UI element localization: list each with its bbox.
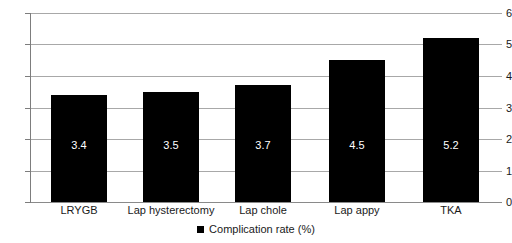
gridline: [30, 13, 502, 14]
y-tick-label: 2: [490, 134, 512, 145]
y-tick-label: 5: [490, 39, 512, 50]
y-tick-mark: [25, 44, 31, 45]
legend-swatch-icon: [197, 226, 204, 233]
bar-value-label: 3.5: [143, 140, 199, 151]
y-tick-mark: [25, 139, 31, 140]
y-tick-label: 4: [490, 71, 512, 82]
bar-value-label: 4.5: [329, 140, 385, 151]
y-tick-label: 1: [490, 166, 512, 177]
bar-value-label: 3.4: [51, 140, 107, 151]
gridline: [30, 202, 502, 203]
y-tick-mark: [25, 202, 31, 203]
bar-value-label: 5.2: [423, 140, 479, 151]
y-tick-label: 3: [490, 103, 512, 114]
bar-chart: 0123456 3.43.53.74.55.2 LRYGBLap hystere…: [0, 0, 512, 243]
y-tick-mark: [25, 171, 31, 172]
bar[interactable]: [329, 60, 385, 202]
y-tick-mark: [25, 76, 31, 77]
y-tick-label: 6: [490, 8, 512, 19]
bar[interactable]: [423, 38, 479, 202]
chart-legend: Complication rate (%): [0, 224, 512, 235]
bar-value-label: 3.7: [235, 140, 291, 151]
x-axis-label: TKA: [391, 205, 511, 216]
legend-label: Complication rate (%): [209, 224, 315, 235]
y-tick-mark: [25, 108, 31, 109]
y-tick-mark: [25, 13, 31, 14]
